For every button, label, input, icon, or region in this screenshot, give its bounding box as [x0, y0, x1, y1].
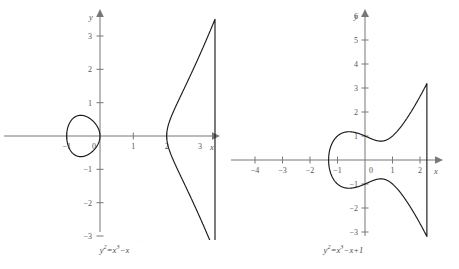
x-tick-label-right-1: −3	[278, 166, 287, 175]
curve-branch-left	[167, 19, 215, 240]
x-tick-label-left-2: 1	[131, 142, 135, 151]
plot-panel-right: −4 −3 −2 −1 0 1 2 1 2 3 4 5 6 −1 −2 −3 x…	[229, 0, 458, 269]
y-tick-label-left-m1: −1	[83, 165, 92, 174]
y-tick-label-right-m2: −2	[349, 204, 358, 213]
x-tick-label-right-5: 1	[391, 166, 395, 175]
y-tick-label-left-m2: −2	[83, 199, 92, 208]
x-axis-label-right: x	[433, 166, 438, 176]
y-tick-label-right-m3: −3	[349, 228, 358, 237]
x-tick-label-right-0: −4	[251, 166, 260, 175]
x-tick-label-right-6: 2	[418, 166, 422, 175]
x-tick-label-right-4: 0	[369, 166, 373, 175]
plot-panel-left: −1 0 1 2 3 1 2 3 −1 −2 −3 x y y2=x3−x	[0, 0, 229, 269]
x-axis-arrowhead-right	[435, 156, 443, 164]
x-axis-label-left: x	[209, 142, 214, 152]
y-tick-label-right-5: 5	[354, 36, 358, 45]
plot-left-svg: −1 0 1 2 3 1 2 3 −1 −2 −3 x y	[0, 0, 229, 240]
caption-left: y2=x3−x	[0, 243, 229, 255]
figure-container: −1 0 1 2 3 1 2 3 −1 −2 −3 x y y2=x3−x	[0, 0, 459, 269]
plot-right-svg: −4 −3 −2 −1 0 1 2 1 2 3 4 5 6 −1 −2 −3 x…	[229, 0, 458, 240]
y-axis-label-left: y	[88, 12, 93, 22]
y-tick-label-left-1: 1	[88, 99, 92, 108]
y-tick-label-left-m3: −3	[83, 232, 92, 240]
caption-left-end: −x	[120, 245, 130, 255]
caption-right-mid: =x	[331, 245, 341, 255]
x-axis-arrowhead-left	[212, 132, 220, 140]
y-tick-label-right-3: 3	[354, 84, 358, 93]
y-tick-label-left-2: 2	[88, 65, 92, 74]
y-tick-label-right-2: 2	[354, 108, 358, 117]
y-axis-arrowhead-left	[96, 9, 104, 17]
caption-right: y2=x3−x+1	[229, 243, 458, 255]
x-tick-label-right-3: −1	[333, 166, 342, 175]
y-tick-label-right-4: 4	[354, 60, 358, 69]
y-tick-label-left-3: 3	[88, 32, 92, 41]
caption-right-end: −x+1	[344, 245, 364, 255]
x-tick-label-right-2: −2	[306, 166, 315, 175]
x-tick-label-left-4: 3	[198, 142, 202, 151]
caption-left-mid: =x	[107, 245, 117, 255]
y-axis-label-right: y	[353, 11, 358, 21]
